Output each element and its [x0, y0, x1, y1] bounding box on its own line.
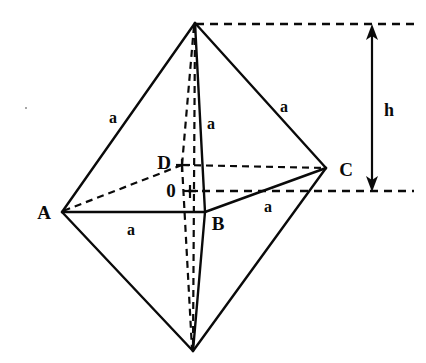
axis-apex-to-bottom: [193, 26, 195, 349]
label-vertex-d: D: [157, 153, 171, 172]
label-edge-b-c: a: [264, 199, 272, 215]
label-edge-a-b: a: [127, 222, 135, 238]
bipyramid-diagram: [0, 0, 426, 363]
vertical-axis-dashed: [193, 26, 195, 349]
label-edge-apex-c: a: [280, 99, 288, 115]
label-center-o: 0: [166, 181, 176, 200]
label-edge-apex-b: a: [207, 116, 215, 132]
label-height: h: [384, 101, 394, 119]
label-vertex-a: A: [37, 203, 51, 222]
edge-apex-b: [195, 23, 205, 212]
edge-apex-c: [195, 23, 326, 168]
label-vertex-c: C: [339, 160, 353, 179]
height-dimension-arrow: [366, 24, 378, 192]
label-edge-apex-a: a: [109, 110, 117, 126]
edge-apex-d: [182, 26, 194, 165]
label-vertex-b: B: [212, 214, 225, 233]
edge-c-bottom: [193, 168, 326, 351]
